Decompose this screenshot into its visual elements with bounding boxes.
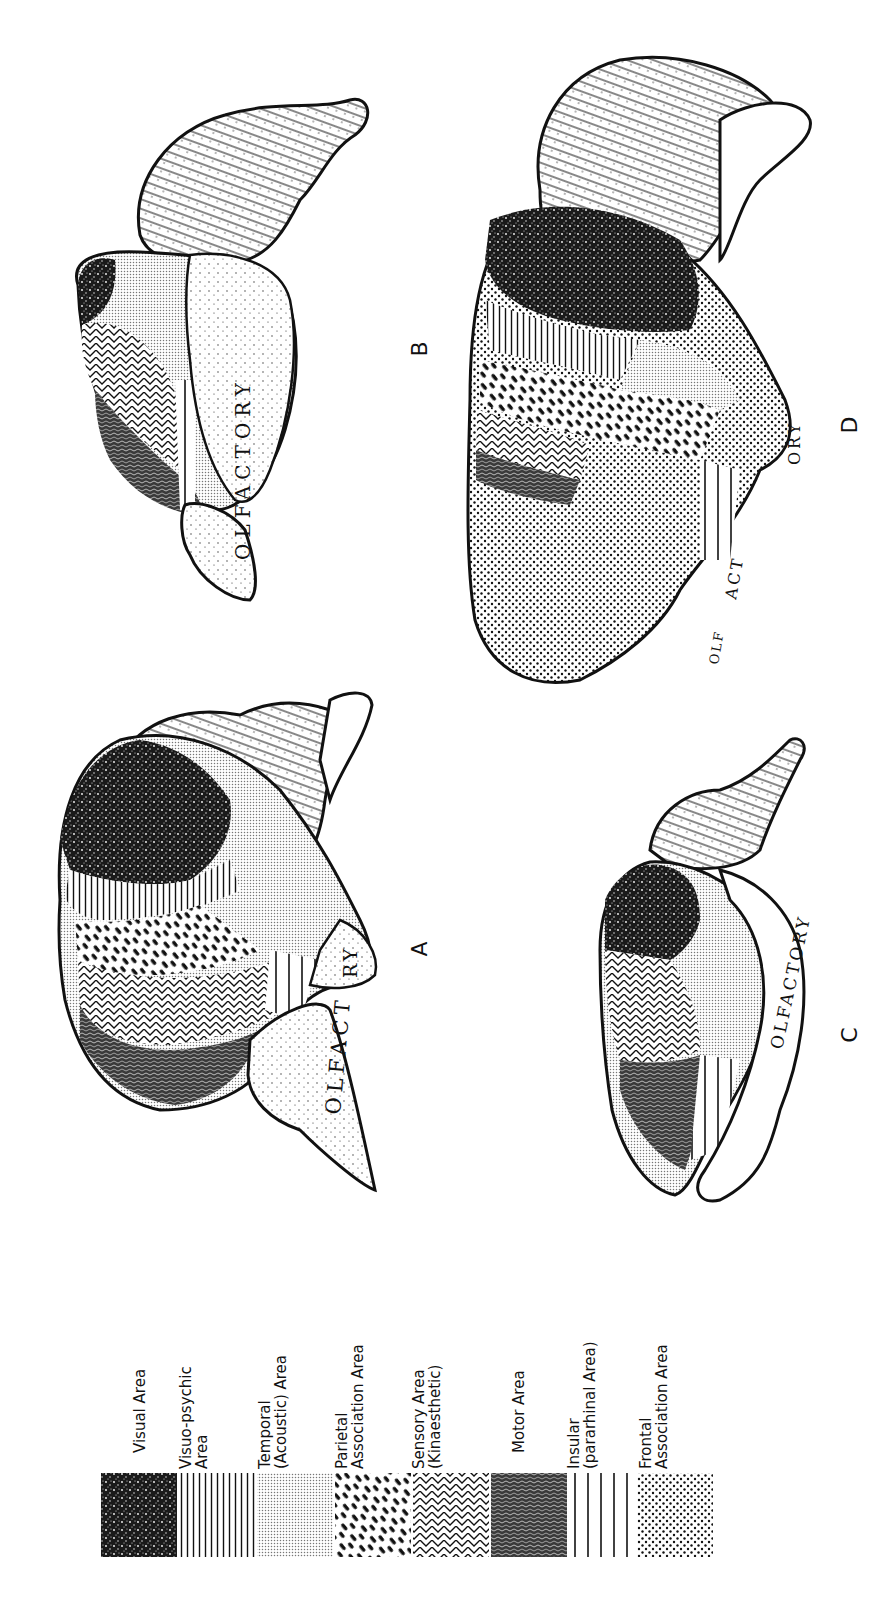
brain-panel-b: OLFACTORY (77, 99, 368, 600)
panel-letter-d: D (839, 417, 861, 434)
legend-label-temporal: Temporal (Acoustic) Area (257, 1355, 289, 1469)
legend-label-sensory: Sensory Area (Kinaesthetic) (411, 1365, 443, 1469)
legend-swatch-visual (101, 1473, 177, 1557)
legend-label-frontal: Frontal Association Area (638, 1344, 670, 1469)
panel-d-olfactory-text-upper: ORY (785, 421, 804, 465)
brain-panel-d: ORY ACT OLF (468, 57, 811, 682)
legend-swatch-insular (569, 1473, 635, 1557)
legend-label-motor: Motor Area (511, 1370, 527, 1453)
legend-swatches (101, 1473, 713, 1557)
panel-a-olfactory-text-upper: RY (339, 946, 361, 978)
panel-letter-c: C (839, 1027, 861, 1042)
legend-label-parietal: Parietal Association Area (334, 1344, 366, 1469)
legend-swatch-visuo-psychic (179, 1473, 255, 1557)
panel-b-cerebellum (138, 99, 367, 265)
panel-c-cerebellum (650, 739, 804, 869)
legend-label-insular: Insular (pararhinal Area) (566, 1341, 598, 1469)
brain-panel-a: RY OLFACT (59, 693, 376, 1190)
legend-swatch-sensory (413, 1473, 489, 1557)
legend-swatch-motor (491, 1473, 567, 1557)
legend-swatch-parietal (335, 1473, 411, 1557)
panel-d-olfactory-text-lower: OLF (706, 629, 727, 665)
legend-swatch-frontal (637, 1473, 713, 1557)
panel-a-olfactory-lobe (248, 1004, 375, 1190)
panel-letter-a: A (409, 941, 431, 956)
panel-d-olfactory-text-mid: ACT (721, 555, 747, 602)
brain-panel-c: OLFACTORY (600, 739, 814, 1201)
legend-label-visual: Visual Area (132, 1369, 148, 1453)
legend-swatch-temporal (257, 1473, 333, 1557)
legend-label-visuo-psychic: Visuo-psychic Area (178, 1366, 210, 1469)
panel-letter-b: B (409, 341, 431, 356)
panel-b-olfactory-text: OLFACTORY (231, 377, 255, 560)
